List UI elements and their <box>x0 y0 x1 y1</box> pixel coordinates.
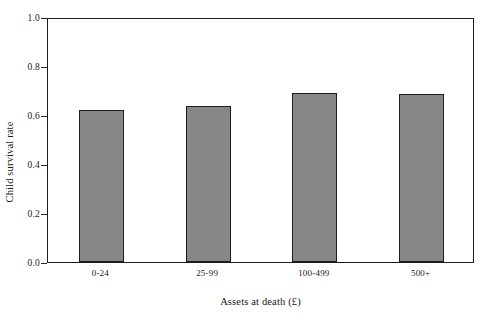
bar-chart-figure: Child survival rate 0.00.20.40.60.81.0 0… <box>0 0 484 324</box>
x-axis-tick-label: 25-99 <box>196 268 218 278</box>
y-axis-tick-label: 0.4 <box>14 160 40 170</box>
y-axis-tick-label: 0.8 <box>14 62 40 72</box>
y-axis-tick-label: 0.0 <box>14 258 40 268</box>
plot-area <box>47 18 474 263</box>
bar <box>79 110 124 262</box>
y-axis-tick-labels: 0.00.20.40.60.81.0 <box>14 0 40 324</box>
x-axis-title: Assets at death (£) <box>47 296 474 307</box>
y-axis-tick-label: 1.0 <box>14 13 40 23</box>
y-axis-tick-label: 0.6 <box>14 111 40 121</box>
x-axis-tick-label: 100-499 <box>298 268 329 278</box>
bar <box>399 94 444 262</box>
x-axis-tick-label: 0-24 <box>92 268 109 278</box>
x-axis-tick-label: 500+ <box>411 268 430 278</box>
bar <box>186 106 231 262</box>
y-axis-tick-mark <box>41 263 47 264</box>
y-axis-tick-label: 0.2 <box>14 209 40 219</box>
bar <box>292 93 337 262</box>
